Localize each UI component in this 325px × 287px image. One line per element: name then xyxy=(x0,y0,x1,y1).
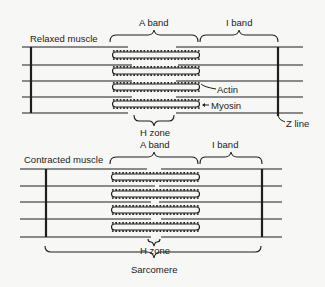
relaxed-section: Relaxed muscle A band I band Actin xyxy=(22,17,309,138)
relaxed-i-band-label: I band xyxy=(226,17,252,28)
sarcomere-diagram: Relaxed muscle A band I band Actin xyxy=(0,0,325,287)
myosin-label: Myosin xyxy=(211,100,241,111)
h-zone-brace xyxy=(134,115,174,126)
actin-pointer xyxy=(201,84,216,89)
i-band-brace xyxy=(200,30,278,42)
relaxed-h-zone-label: H zone xyxy=(140,127,170,138)
relaxed-myosin-filaments xyxy=(112,50,200,109)
z-line-label: Z line xyxy=(286,118,309,129)
contracted-title: Contracted muscle xyxy=(24,154,103,165)
relaxed-a-band-label: A band xyxy=(139,17,169,28)
a-band-brace xyxy=(110,30,198,42)
myosin-arrowhead-icon xyxy=(202,103,205,107)
actin-label: Actin xyxy=(217,84,238,95)
contracted-i-band-label: I band xyxy=(212,139,238,150)
contracted-a-band-brace xyxy=(110,152,198,164)
contracted-section: Contracted muscle A band I band H zone S… xyxy=(20,139,282,275)
sarcomere-label: Sarcomere xyxy=(131,264,177,275)
contracted-a-band-label: A band xyxy=(140,139,170,150)
contracted-i-band-brace xyxy=(200,152,262,164)
z-line-pointer xyxy=(278,116,285,122)
relaxed-title: Relaxed muscle xyxy=(30,33,98,44)
